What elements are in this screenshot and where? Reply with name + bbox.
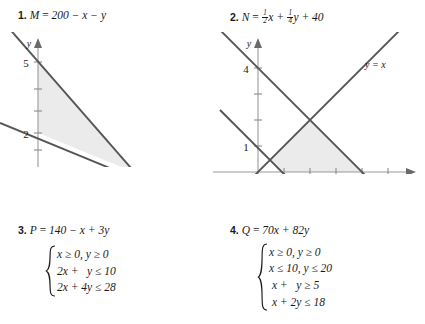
problem-2-number: 2. <box>230 11 239 23</box>
problem-2-objective-variable: N <box>242 11 250 23</box>
fraction-numerator: 1 <box>262 10 268 17</box>
problem-2-term-after-first-fraction: x + <box>268 11 284 23</box>
problem-4-constraint-3: x + y ≥ 5 <box>269 277 332 294</box>
problem-3-constraint-system: x ≥ 0, y ≥ 0 2x + y ≤ 10 2x + 4y ≤ 28 <box>45 245 116 297</box>
problem-3-objective-expression: 140 − x + 3y <box>49 224 109 236</box>
problem-3-objective-variable: P <box>30 224 37 236</box>
problem-4-constraint-list: x ≥ 0, y ≥ 0 x ≤ 10, y ≤ 20 x + y ≥ 5 x … <box>269 243 332 311</box>
problem-4-constraint-2: x ≤ 10, y ≤ 20 <box>269 260 332 277</box>
graph-2-line-label-y-equals-x: y = x <box>364 59 386 70</box>
problem-2-equals: = <box>252 11 259 23</box>
fraction-denominator: 4 <box>287 17 293 25</box>
left-brace-icon <box>45 245 56 297</box>
graph-2-y-axis-title: y <box>246 38 252 49</box>
problem-1-objective-expression: 200 − x − y <box>52 9 106 21</box>
problem-1-graph: 5 2 0 4 y x <box>0 32 213 167</box>
graph-1-y-axis-title: y <box>26 38 32 49</box>
problem-1-equals: = <box>42 9 49 21</box>
brace-glyph <box>257 243 268 311</box>
problem-4-number: 4. <box>230 224 239 236</box>
problem-4-constraint-system: x ≥ 0, y ≥ 0 x ≤ 10, y ≤ 20 x + y ≥ 5 x … <box>257 243 332 311</box>
problem-3-title: 3.P = 140 − x + 3y <box>18 225 109 237</box>
problem-2-fraction-one-quarter: 14 <box>287 10 293 26</box>
problem-4-equals: = <box>253 224 260 236</box>
problem-2-term-after-second-fraction: y + 40 <box>294 11 324 23</box>
graph-1-svg: 5 2 0 4 y x <box>0 32 213 167</box>
problem-4-objective-expression: 70x + 82y <box>262 224 309 236</box>
fraction-numerator: 1 <box>287 10 293 17</box>
graph-1-y-label-5: 5 <box>23 57 29 69</box>
left-brace-icon <box>257 243 268 311</box>
problem-3-equals: = <box>40 224 47 236</box>
problem-4-objective-variable: Q <box>242 224 250 236</box>
problem-1-objective-variable: M <box>30 9 40 21</box>
graph-2-y-axis-arrow <box>254 38 262 48</box>
brace-glyph <box>45 245 56 297</box>
graph-2-y-label-4: 4 <box>243 63 249 75</box>
problem-3: 3.P = 140 − x + 3y x ≥ 0, y ≥ 0 2x + y ≤… <box>0 215 212 324</box>
problem-2-fraction-one-half: 12 <box>262 10 268 26</box>
problem-2-graph: 4 1 1 4 y x y = x <box>213 32 425 174</box>
graph-2-y-label-1: 1 <box>243 141 249 153</box>
graph-1-y-label-2: 2 <box>23 128 29 140</box>
problem-1-title: 1.M = 200 − x − y <box>18 10 106 22</box>
problem-3-constraint-3: 2x + 4y ≤ 28 <box>57 279 116 296</box>
problem-1: 1.M = 200 − x − y <box>0 0 212 162</box>
fraction-denominator: 2 <box>262 17 268 25</box>
problem-4: 4.Q = 70x + 82y x ≥ 0, y ≥ 0 x ≤ 10, y ≤… <box>213 215 425 324</box>
problem-2-title: 2.N = 12x + 14y + 40 <box>230 10 324 26</box>
problem-1-number: 1. <box>18 9 27 21</box>
problem-4-constraint-4: x + 2y ≤ 18 <box>269 294 332 311</box>
graph-2-svg: 4 1 1 4 y x y = x <box>213 32 425 174</box>
problem-3-constraint-list: x ≥ 0, y ≥ 0 2x + y ≤ 10 2x + 4y ≤ 28 <box>57 245 116 297</box>
problem-3-constraint-1: x ≥ 0, y ≥ 0 <box>57 246 116 263</box>
graph-1-y-axis-arrow <box>34 38 42 48</box>
graph-2-x-axis-arrow <box>406 168 416 174</box>
problem-3-number: 3. <box>18 224 27 236</box>
problem-2: 2.N = 12x + 14y + 40 <box>213 0 425 162</box>
problem-4-constraint-1: x ≥ 0, y ≥ 0 <box>269 244 332 261</box>
problem-3-constraint-2: 2x + y ≤ 10 <box>57 263 116 280</box>
problem-4-title: 4.Q = 70x + 82y <box>230 225 309 237</box>
worksheet-page: 1.M = 200 − x − y <box>0 0 425 324</box>
